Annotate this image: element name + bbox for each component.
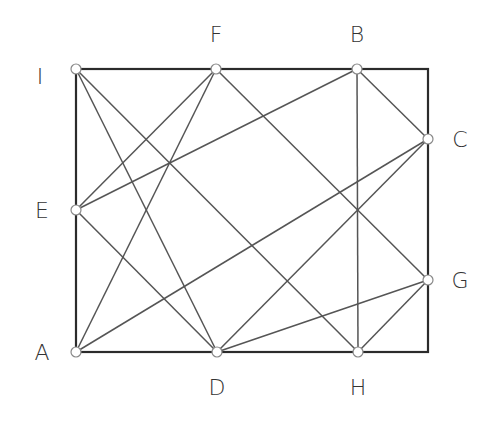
point-f-icon [211,64,221,74]
diagram-canvas: IFBCEGADH [0,0,495,421]
segment-d-g [217,280,428,352]
point-c-icon [423,134,433,144]
label-h: H [350,375,367,400]
label-g: G [451,268,468,293]
diagonal-lines [76,69,428,352]
segment-g-h [358,280,428,352]
vertex-labels: IFBCEGADH [34,22,468,400]
label-i: I [37,64,44,89]
point-a-icon [71,347,81,357]
label-f: F [210,22,223,47]
vertex-points [71,64,433,357]
label-e: E [35,198,49,223]
label-b: B [350,22,364,47]
segment-c-d [217,139,428,352]
segment-d-e [76,210,217,352]
label-c: C [452,127,467,152]
point-i-icon [71,64,81,74]
point-b-icon [352,64,362,74]
segment-i-h [76,69,358,352]
label-d: D [209,375,226,400]
rectangle-border [76,69,428,352]
point-h-icon [353,347,363,357]
label-a: A [34,340,49,365]
point-g-icon [423,275,433,285]
segment-e-b [76,69,357,210]
segment-b-c [357,69,428,139]
point-d-icon [212,347,222,357]
point-e-icon [71,205,81,215]
